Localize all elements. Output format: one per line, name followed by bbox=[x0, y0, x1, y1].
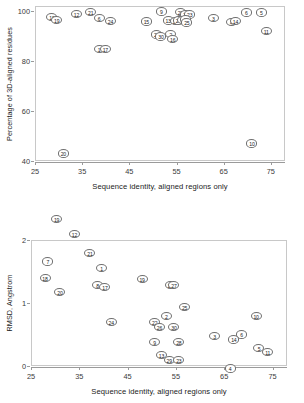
x-tick-label: 25 bbox=[24, 167, 46, 176]
data-point-marker: 6 bbox=[241, 8, 252, 16]
x-tick-label: 75 bbox=[260, 167, 282, 176]
data-point-marker: 17 bbox=[99, 283, 110, 291]
x-tick-label: 35 bbox=[71, 167, 93, 176]
data-point-marker: 7 bbox=[42, 257, 53, 265]
data-point-marker: 24 bbox=[105, 17, 116, 25]
data-point-marker: 25 bbox=[181, 18, 192, 26]
plot-area-top bbox=[35, 6, 285, 161]
x-tick-label: 65 bbox=[213, 167, 235, 176]
y-tick-label: 0 bbox=[4, 362, 26, 371]
data-point-marker: 2 bbox=[161, 312, 172, 320]
x-axis-label-top: Sequence identity, aligned regions only bbox=[35, 182, 285, 191]
data-point-marker: 10 bbox=[251, 312, 262, 320]
data-point-marker: 26 bbox=[154, 323, 165, 331]
x-axis-line bbox=[31, 367, 287, 368]
data-point-marker: 11 bbox=[261, 27, 272, 35]
x-tick-label: 55 bbox=[165, 372, 187, 381]
y-tick-mark bbox=[31, 11, 34, 12]
data-point-marker: 24 bbox=[106, 318, 117, 326]
y-tick-label: 80 bbox=[8, 57, 30, 66]
data-point-marker: 19 bbox=[51, 215, 62, 223]
data-point-marker: 14 bbox=[228, 335, 239, 343]
data-point-marker: 19 bbox=[137, 275, 148, 283]
x-tick-label: 65 bbox=[213, 372, 235, 381]
data-point-marker: 1 bbox=[96, 264, 107, 272]
x-tick-label: 35 bbox=[68, 372, 90, 381]
chart-panel-top: Percentage of 3D-aligned residues Sequen… bbox=[0, 0, 304, 200]
figure-two-scatter-panels: Percentage of 3D-aligned residues Sequen… bbox=[0, 0, 304, 403]
y-tick-mark bbox=[27, 240, 30, 241]
chart-panel-bottom: RMSD, Angstrom Sequence identity, aligne… bbox=[0, 200, 304, 403]
y-tick-mark bbox=[27, 303, 30, 304]
data-point-marker: 4 bbox=[225, 364, 236, 372]
y-tick-label: 60 bbox=[8, 107, 30, 116]
data-point-marker: 17 bbox=[100, 45, 111, 53]
y-tick-label: 40 bbox=[8, 157, 30, 166]
y-tick-label: 1 bbox=[4, 299, 26, 308]
y-tick-mark bbox=[31, 161, 34, 162]
x-tick-label: 45 bbox=[118, 167, 140, 176]
data-point-marker: 6 bbox=[94, 14, 105, 22]
x-tick-label: 55 bbox=[166, 167, 188, 176]
y-tick-mark bbox=[27, 366, 30, 367]
y-axis-label-top: Percentage of 3D-aligned residues bbox=[5, 27, 14, 141]
y-tick-mark bbox=[31, 61, 34, 62]
data-point-marker: 9 bbox=[156, 7, 167, 15]
data-point-marker: 14 bbox=[230, 17, 241, 25]
data-point-marker: 21 bbox=[84, 249, 95, 257]
x-tick-label: 25 bbox=[20, 372, 42, 381]
data-point-marker: 20 bbox=[58, 149, 69, 157]
x-axis-label-bottom: Sequence identity, aligned regions only bbox=[31, 387, 287, 396]
x-axis-line bbox=[35, 162, 285, 163]
x-tick-label: 45 bbox=[117, 372, 139, 381]
y-tick-label: 100 bbox=[8, 7, 30, 16]
data-point-marker: 12 bbox=[69, 230, 80, 238]
data-point-marker: 5 bbox=[256, 8, 267, 16]
y-tick-mark bbox=[31, 111, 34, 112]
data-point-marker: 12 bbox=[71, 10, 82, 18]
y-tick-label: 2 bbox=[4, 236, 26, 245]
data-point-marker: 3 bbox=[208, 14, 219, 22]
data-point-marker: 10 bbox=[246, 139, 257, 147]
data-point-marker: 15 bbox=[141, 17, 152, 25]
data-point-marker: 18 bbox=[40, 274, 51, 282]
plot-area-bottom bbox=[31, 240, 287, 366]
data-point-marker: 16 bbox=[167, 35, 178, 43]
x-tick-label: 75 bbox=[262, 372, 284, 381]
data-point-marker: 3 bbox=[209, 332, 220, 340]
